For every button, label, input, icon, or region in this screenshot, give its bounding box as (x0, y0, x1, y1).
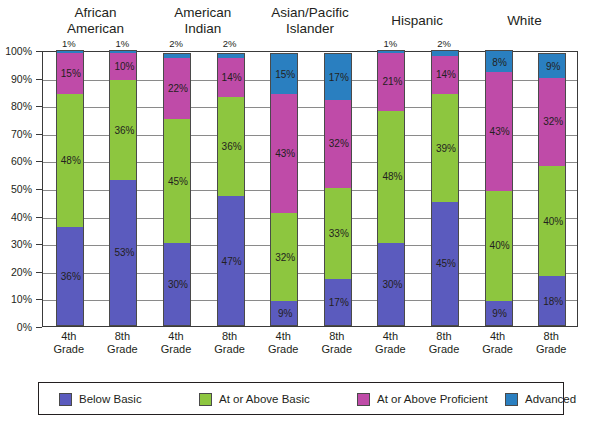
bar-segment-below-basic[interactable]: 9% (270, 301, 298, 326)
x-axis-label-line2: Grade (96, 343, 148, 356)
x-axis-label-line1: 4th (150, 330, 202, 343)
y-axis-tick-label: 30% (11, 238, 32, 250)
segment-value-label: 14% (426, 69, 466, 80)
bar-segment-at-or-above-proficient[interactable]: 14% (217, 58, 245, 97)
y-axis-tick-label: 0% (17, 321, 32, 333)
x-axis-label-line1: 8th (525, 330, 577, 343)
segment-value-label: 48% (372, 171, 412, 182)
bar-segment-below-basic[interactable]: 17% (324, 279, 352, 326)
bar-segment-at-or-above-basic[interactable]: 33% (324, 188, 352, 279)
bar-segment-below-basic[interactable]: 53% (109, 180, 137, 326)
bar-african-american-4th[interactable]: 36%48%15% (56, 50, 84, 326)
bar-segment-below-basic[interactable]: 30% (163, 243, 191, 326)
bar-segment-advanced[interactable] (163, 53, 191, 59)
x-axis-label: 8thGrade (525, 330, 577, 356)
bar-segment-at-or-above-proficient[interactable]: 14% (431, 56, 459, 95)
legend-label: Advanced (525, 393, 576, 406)
bar-asian-pacific-islander-4th[interactable]: 9%32%43%15% (270, 50, 298, 326)
bar-segment-at-or-above-basic[interactable]: 36% (109, 80, 137, 179)
legend-label: At or Above Basic (219, 393, 310, 406)
group-title-african-american: AfricanAmerican (36, 5, 156, 37)
bar-segment-at-or-above-basic[interactable]: 48% (377, 111, 405, 243)
group-title-line2: American (36, 21, 156, 37)
bar-segment-at-or-above-proficient[interactable]: 32% (538, 78, 566, 166)
bar-segment-below-basic[interactable]: 45% (431, 202, 459, 326)
legend-item-below-basic[interactable]: Below Basic (59, 391, 142, 407)
segment-value-label: 36% (212, 141, 252, 152)
y-axis: 0%10%20%30%40%50%60%70%80%90%100% (0, 51, 38, 327)
legend-item-at-or-above-basic[interactable]: At or Above Basic (199, 391, 310, 407)
y-axis-tick-label: 70% (11, 128, 32, 140)
plot-area: 36%48%15%53%36%10%30%45%22%47%36%14%9%32… (42, 51, 578, 327)
legend-item-at-or-above-proficient[interactable]: At or Above Proficient (357, 391, 488, 407)
segment-value-label: 9% (533, 61, 573, 72)
legend-swatch-icon (357, 393, 370, 406)
group-title-line1: Asian/Pacific (250, 5, 370, 21)
bar-segment-at-or-above-proficient[interactable]: 43% (270, 94, 298, 213)
group-title-american-indian: AmericanIndian (143, 5, 263, 37)
bar-segment-below-basic[interactable]: 18% (538, 276, 566, 326)
bar-segment-at-or-above-basic[interactable]: 39% (431, 94, 459, 202)
bar-asian-pacific-islander-8th[interactable]: 17%33%32%17% (324, 50, 352, 326)
segment-value-label: 45% (426, 258, 466, 269)
bar-hispanic-8th[interactable]: 45%39%14% (431, 50, 459, 326)
legend-label: At or Above Proficient (377, 393, 488, 406)
bar-segment-at-or-above-basic[interactable]: 48% (56, 94, 84, 226)
bar-white-8th[interactable]: 18%40%32%9% (538, 50, 566, 326)
x-axis-label: 8thGrade (96, 330, 148, 356)
bar-segment-at-or-above-proficient[interactable]: 21% (377, 53, 405, 111)
bar-segment-below-basic[interactable]: 30% (377, 243, 405, 326)
x-axis-label-line2: Grade (525, 343, 577, 356)
x-axis-label-line1: 4th (257, 330, 309, 343)
bar-african-american-8th[interactable]: 53%36%10% (109, 50, 137, 326)
bar-segment-below-basic[interactable]: 36% (56, 227, 84, 326)
bar-white-4th[interactable]: 9%40%43%8% (485, 50, 513, 326)
x-axis-label: 4thGrade (257, 330, 309, 356)
bar-segment-advanced[interactable] (217, 53, 245, 59)
y-axis-tick-mark (36, 327, 42, 328)
x-axis-label: 4thGrade (472, 330, 524, 356)
y-axis-tick-label: 60% (11, 155, 32, 167)
stacked-bar-chart: AfricanAmericanAmericanIndianAsian/Pacif… (0, 0, 602, 429)
advanced-value-callout: 1% (370, 38, 410, 49)
bar-segment-advanced[interactable] (109, 50, 137, 53)
segment-value-label: 22% (158, 83, 198, 94)
bar-segment-below-basic[interactable]: 47% (217, 196, 245, 326)
group-title-hispanic: Hispanic (357, 13, 477, 29)
bar-segment-advanced[interactable] (377, 50, 405, 53)
y-axis-tick-label: 50% (11, 183, 32, 195)
legend-item-advanced[interactable]: Advanced (505, 391, 576, 407)
bar-segment-at-or-above-proficient[interactable]: 43% (485, 72, 513, 191)
segment-value-label: 9% (480, 308, 520, 319)
segment-value-label: 40% (480, 240, 520, 251)
bar-segment-at-or-above-basic[interactable]: 40% (538, 166, 566, 276)
segment-value-label: 17% (319, 297, 359, 308)
x-axis-label-line2: Grade (364, 343, 416, 356)
bar-segment-at-or-above-proficient[interactable]: 10% (109, 53, 137, 81)
bar-segment-at-or-above-basic[interactable]: 40% (485, 191, 513, 301)
segment-value-label: 18% (533, 296, 573, 307)
bar-segment-below-basic[interactable]: 9% (485, 301, 513, 326)
segment-value-label: 14% (212, 72, 252, 83)
segment-value-label: 32% (319, 138, 359, 149)
bar-segment-at-or-above-proficient[interactable]: 32% (324, 100, 352, 188)
bar-segment-at-or-above-proficient[interactable]: 15% (56, 53, 84, 94)
segment-value-label: 32% (533, 116, 573, 127)
bar-american-indian-4th[interactable]: 30%45%22% (163, 50, 191, 326)
advanced-value-callout: 2% (156, 38, 196, 49)
group-title-line2: Islander (250, 21, 370, 37)
bar-segment-advanced[interactable]: 8% (485, 50, 513, 72)
bar-segment-at-or-above-basic[interactable]: 45% (163, 119, 191, 243)
chart-legend: Below BasicAt or Above BasicAt or Above … (38, 382, 564, 415)
bar-segment-at-or-above-basic[interactable]: 32% (270, 213, 298, 301)
bar-segment-advanced[interactable]: 15% (270, 53, 298, 94)
bar-segment-advanced[interactable]: 9% (538, 53, 566, 78)
bar-segment-advanced[interactable] (431, 50, 459, 56)
bar-hispanic-4th[interactable]: 30%48%21% (377, 50, 405, 326)
bar-segment-advanced[interactable] (56, 50, 84, 53)
bar-segment-advanced[interactable]: 17% (324, 53, 352, 100)
bar-segment-at-or-above-basic[interactable]: 36% (217, 97, 245, 196)
bar-american-indian-8th[interactable]: 47%36%14% (217, 50, 245, 326)
bar-segment-at-or-above-proficient[interactable]: 22% (163, 58, 191, 119)
segment-value-label: 47% (212, 256, 252, 267)
